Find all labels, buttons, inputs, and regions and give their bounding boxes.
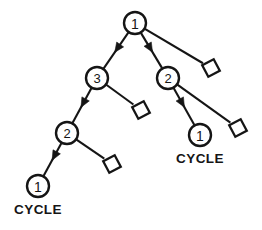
tree-edge [177,85,230,123]
cycle-annotation-label: CYCLE [176,151,224,166]
edge-arrow-icon [81,97,89,107]
tree-node-label: 1 [196,128,204,144]
tree-node-label: 3 [93,71,100,86]
tree-node-label: 1 [131,16,139,32]
tree-node-label: 1 [34,179,42,195]
tree-edge [76,140,104,159]
edge-arrow-icon [144,42,152,52]
leaf-square [103,155,121,173]
tree-edge [106,85,133,105]
edge-arrow-icon [52,150,60,160]
tree-node-label: 2 [164,71,171,86]
cycle-annotation-label: CYCLE [14,202,62,217]
tree-diagram-canvas: 132211 CYCLECYCLE [0,0,262,230]
tree-node-label: 2 [63,126,70,141]
tree-edge [145,29,203,63]
tree-diagram: 132211 CYCLECYCLE [0,0,262,230]
leaf-square [132,101,150,119]
edge-arrow-icon [115,42,124,52]
edge-arrow-icon [176,97,184,107]
leaf-square [229,119,247,137]
leaf-square [202,59,220,77]
